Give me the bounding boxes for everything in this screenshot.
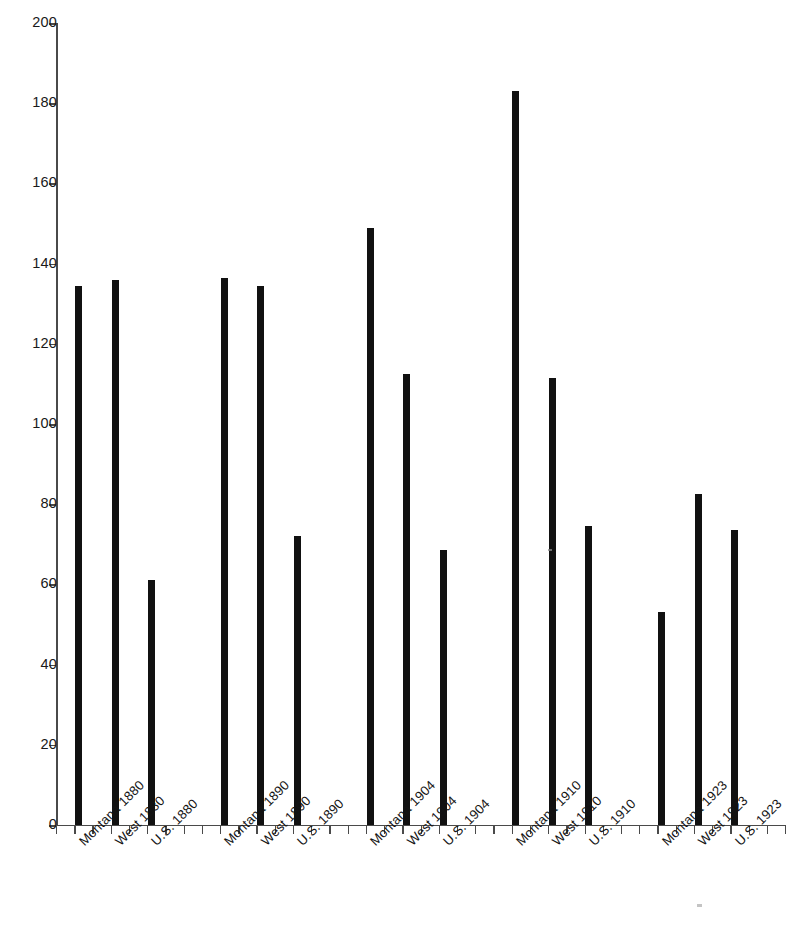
x-tick-mark bbox=[202, 825, 203, 834]
x-tick-mark bbox=[475, 825, 476, 834]
bar bbox=[695, 494, 702, 825]
bar bbox=[658, 612, 665, 825]
x-tick-mark bbox=[639, 825, 640, 834]
bar bbox=[257, 286, 264, 825]
x-tick-mark bbox=[74, 825, 75, 834]
bar bbox=[75, 286, 82, 825]
x-tick-mark bbox=[293, 825, 294, 834]
x-tick-mark bbox=[767, 825, 768, 834]
bar bbox=[148, 580, 155, 825]
x-tick-mark bbox=[147, 825, 148, 834]
bar bbox=[403, 374, 410, 825]
x-tick-mark bbox=[730, 825, 731, 834]
x-tick-mark bbox=[220, 825, 221, 834]
bars-layer bbox=[0, 0, 797, 825]
x-tick-mark bbox=[694, 825, 695, 834]
bar bbox=[367, 228, 374, 825]
bar bbox=[294, 536, 301, 825]
bar bbox=[112, 280, 119, 825]
x-tick-mark bbox=[256, 825, 257, 834]
bar bbox=[221, 278, 228, 825]
x-tick-mark bbox=[366, 825, 367, 834]
x-tick-mark bbox=[348, 825, 349, 834]
x-tick-mark bbox=[184, 825, 185, 834]
x-tick-mark bbox=[548, 825, 549, 834]
scan-speck bbox=[548, 549, 552, 551]
scan-speck bbox=[697, 904, 702, 907]
bar bbox=[585, 526, 592, 825]
x-tick-mark bbox=[402, 825, 403, 834]
x-tick-mark bbox=[493, 825, 494, 834]
chart-page: 020406080100120140160180200 Montana 1880… bbox=[0, 0, 797, 936]
x-tick-mark bbox=[329, 825, 330, 834]
x-tick-mark bbox=[111, 825, 112, 834]
x-tick-mark bbox=[56, 825, 57, 834]
x-tick-mark bbox=[657, 825, 658, 834]
bar-chart: 020406080100120140160180200 Montana 1880… bbox=[0, 0, 797, 936]
x-tick-mark bbox=[585, 825, 586, 834]
bar bbox=[440, 550, 447, 825]
bar bbox=[731, 530, 738, 825]
x-tick-mark bbox=[439, 825, 440, 834]
x-tick-mark bbox=[512, 825, 513, 834]
bar bbox=[549, 378, 556, 825]
x-tick-mark bbox=[621, 825, 622, 834]
x-tick-mark bbox=[785, 825, 786, 834]
bar bbox=[512, 91, 519, 825]
